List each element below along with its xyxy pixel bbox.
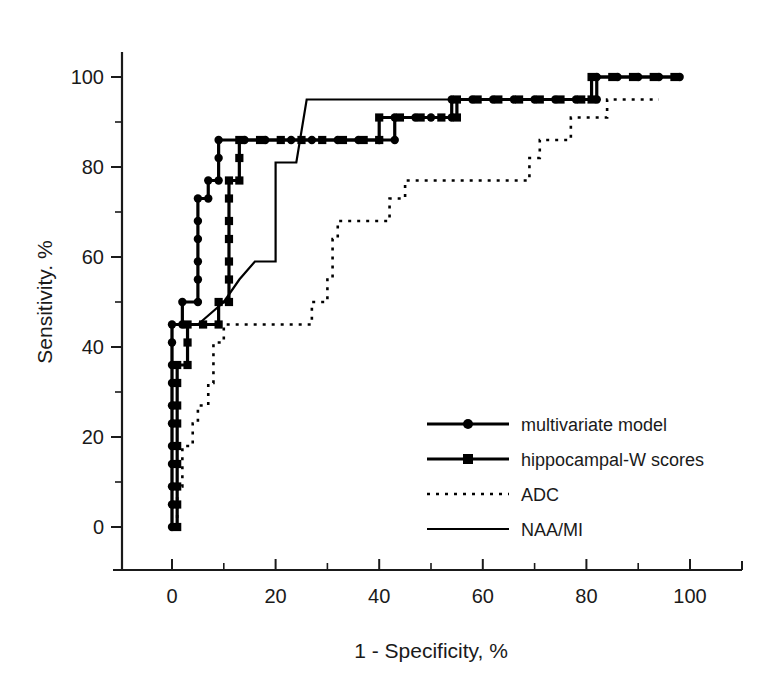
data-point-marker	[235, 176, 243, 184]
data-point-marker	[629, 73, 637, 81]
data-point-marker	[587, 95, 595, 103]
data-point-marker	[417, 113, 425, 121]
data-point-marker	[214, 136, 222, 144]
data-point-marker	[235, 136, 243, 144]
data-point-marker	[183, 338, 191, 346]
data-point-marker	[214, 176, 222, 184]
legend-label: multivariate model	[521, 415, 667, 435]
data-point-marker	[318, 136, 326, 144]
data-point-marker	[204, 194, 212, 202]
data-point-marker	[587, 73, 595, 81]
data-point-marker	[194, 257, 202, 265]
x-tick-label: 100	[673, 585, 706, 607]
data-point-marker	[225, 194, 233, 202]
data-point-marker	[494, 95, 502, 103]
data-point-marker	[391, 136, 399, 144]
plot-canvas: 0204060801000204060801001 - Specificity,…	[0, 0, 783, 680]
data-point-marker	[194, 194, 202, 202]
data-point-marker	[194, 217, 202, 225]
y-axis-title: Sensitivity. %	[33, 240, 56, 363]
data-point-marker	[396, 113, 404, 121]
data-point-marker	[536, 95, 544, 103]
data-point-marker	[173, 379, 181, 387]
x-axis-title: 1 - Specificity, %	[354, 639, 508, 662]
data-point-marker	[225, 275, 233, 283]
data-point-marker	[173, 419, 181, 427]
y-tick-label: 40	[82, 336, 104, 358]
data-point-marker	[670, 73, 678, 81]
data-point-marker	[178, 298, 186, 306]
data-point-marker	[339, 136, 347, 144]
legend-label: hippocampal-W scores	[521, 450, 704, 470]
x-tick-label: 0	[166, 585, 177, 607]
data-point-marker	[215, 320, 223, 328]
data-point-marker	[515, 95, 523, 103]
data-point-marker	[277, 136, 285, 144]
data-point-marker	[194, 298, 202, 306]
data-point-marker	[375, 113, 383, 121]
figure-background	[0, 0, 783, 680]
data-point-marker	[225, 235, 233, 243]
data-point-marker	[194, 275, 202, 283]
y-tick-label: 20	[82, 426, 104, 448]
roc-curve-figure: 0204060801000204060801001 - Specificity,…	[0, 0, 783, 680]
y-tick-label: 80	[82, 156, 104, 178]
data-point-marker	[360, 136, 368, 144]
y-tick-label: 100	[71, 66, 104, 88]
data-point-marker	[577, 95, 585, 103]
data-point-marker	[173, 442, 181, 450]
data-point-marker	[608, 73, 616, 81]
data-point-marker	[235, 154, 243, 162]
data-point-marker	[650, 73, 658, 81]
legend-square-marker-icon	[463, 454, 473, 464]
data-point-marker	[173, 460, 181, 468]
data-point-marker	[214, 154, 222, 162]
legend-label: NAA/MI	[521, 520, 583, 540]
data-point-marker	[183, 361, 191, 369]
x-tick-label: 80	[575, 585, 597, 607]
x-tick-label: 40	[368, 585, 390, 607]
x-tick-label: 20	[264, 585, 286, 607]
data-point-marker	[556, 95, 564, 103]
x-tick-label: 60	[472, 585, 494, 607]
data-point-marker	[204, 176, 212, 184]
data-point-marker	[437, 113, 445, 121]
data-point-marker	[225, 176, 233, 184]
data-point-marker	[225, 217, 233, 225]
data-point-marker	[453, 113, 461, 121]
data-point-marker	[173, 401, 181, 409]
data-point-marker	[375, 136, 383, 144]
y-tick-label: 0	[93, 516, 104, 538]
legend-circle-marker-icon	[463, 419, 473, 429]
y-tick-label: 60	[82, 246, 104, 268]
data-point-marker	[256, 136, 264, 144]
data-point-marker	[225, 257, 233, 265]
data-point-marker	[194, 235, 202, 243]
legend-label: ADC	[521, 485, 559, 505]
data-point-marker	[173, 361, 181, 369]
